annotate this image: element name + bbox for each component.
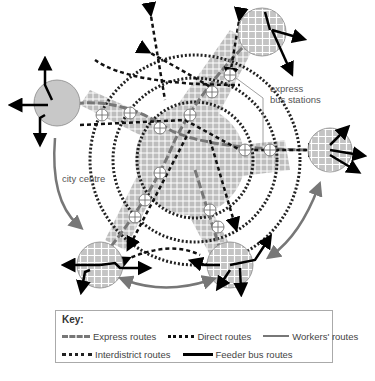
legend-label: Interdistrict routes [95, 349, 171, 360]
express-route-swatch [62, 335, 90, 338]
legend-label: Express routes [93, 331, 156, 342]
feeder-route-swatch [183, 353, 213, 356]
legend-item-interdistrict: Interdistrict routes [62, 349, 171, 360]
legend-label: Direct routes [197, 331, 251, 342]
station-leader-line [236, 78, 263, 145]
legend-label: Feeder bus routes [216, 349, 293, 360]
city-centre-label: city centre [62, 173, 105, 184]
legend-row-1: Express routes Direct routes Workers' ro… [62, 327, 326, 345]
legend-item-feeder: Feeder bus routes [183, 349, 293, 360]
direct-route-swatch [168, 335, 194, 338]
legend-label: Workers' routes [292, 331, 358, 342]
interdistrict-route-swatch [62, 353, 92, 356]
transit-network-diagram [0, 0, 375, 300]
workers-route-swatch [263, 335, 289, 337]
urban-area [80, 30, 290, 255]
legend-title: Key: [62, 314, 326, 325]
legend-row-2: Interdistrict routes Feeder bus routes [62, 345, 326, 363]
express-bus-stations-label: express bus stations [270, 83, 340, 105]
legend-item-direct: Direct routes [168, 331, 251, 342]
legend-item-workers: Workers' routes [263, 331, 358, 342]
legend: Key: Express routes Direct routes Worker… [55, 310, 333, 363]
legend-item-express: Express routes [62, 331, 156, 342]
